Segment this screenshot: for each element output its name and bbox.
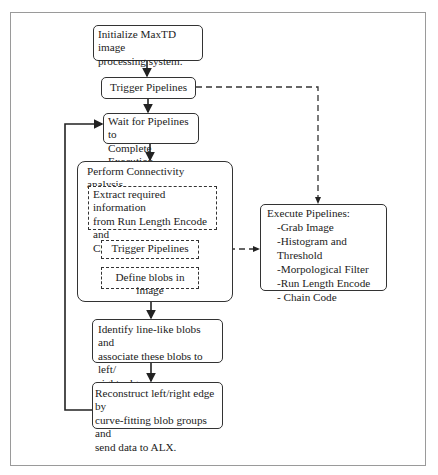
- node-initialize: Initialize MaxTD image processing system…: [93, 25, 203, 61]
- node-execute-title: Execute Pipelines:: [267, 206, 380, 220]
- execute-item-run-length: -Run Length Encode: [267, 276, 380, 290]
- node-identify-line-2: associate these blobs to left/: [98, 350, 217, 377]
- node-initialize-line-2: processing system.: [98, 55, 198, 68]
- node-reconstruct: Reconstruct left/right edge by curve-fit…: [92, 382, 223, 429]
- node-identify-line-1: Identify line-like blobs and: [98, 323, 217, 350]
- substep-trigger-pipelines: Trigger Pipelines: [101, 240, 199, 259]
- node-wait: Wait for Pipelines to Complete Execution: [103, 113, 199, 144]
- execute-item-histogram: -Histogram and Threshold: [267, 234, 380, 262]
- execute-item-grab-image: -Grab Image: [267, 220, 380, 234]
- substep-extract-line-2: from Run Length Encode and: [93, 215, 212, 242]
- substep-define-blobs: Define blobs in image: [101, 267, 199, 289]
- node-reconstruct-line-2: curve-fitting blob groups and: [95, 414, 220, 441]
- substep-extract: Extract required information from Run Le…: [88, 186, 217, 230]
- node-initialize-line-1: Initialize MaxTD image: [98, 28, 198, 55]
- node-trigger-pipelines-label: Trigger Pipelines: [110, 81, 187, 93]
- node-wait-line-1: Wait for Pipelines to: [108, 115, 194, 142]
- node-reconstruct-line-1: Reconstruct left/right edge by: [95, 387, 220, 414]
- execute-item-chain-code: - Chain Code: [267, 290, 380, 304]
- substep-extract-line-1: Extract required information: [93, 188, 212, 215]
- node-trigger-pipelines: Trigger Pipelines: [101, 77, 196, 99]
- substep-trigger-pipelines-label: Trigger Pipelines: [112, 242, 189, 254]
- node-execute-pipelines: Execute Pipelines: -Grab Image -Histogra…: [260, 204, 387, 291]
- execute-item-morphological: -Morpological Filter: [267, 262, 380, 276]
- node-reconstruct-line-3: send data to ALX.: [95, 441, 220, 454]
- node-identify: Identify line-like blobs and associate t…: [92, 319, 223, 363]
